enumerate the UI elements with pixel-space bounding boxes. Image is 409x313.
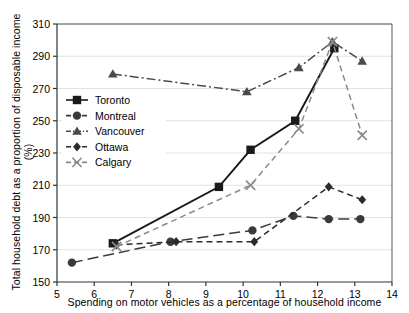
data-point-marker: [291, 117, 299, 125]
data-point-marker: [172, 237, 180, 246]
y-tick-label: 190: [32, 212, 50, 224]
line-chart-svg: 1501701902102302502702903105678910111213…: [0, 0, 409, 313]
data-point-marker: [248, 226, 256, 234]
data-point-marker: [246, 146, 254, 154]
y-axis-label: Total household debt as a proportion of …: [10, 12, 34, 292]
legend-label-ottawa: Ottawa: [95, 141, 128, 153]
data-point-marker: [294, 124, 303, 133]
series-line: [117, 187, 363, 245]
data-point-marker: [325, 215, 333, 223]
data-point-marker: [357, 56, 367, 64]
y-tick-label: 290: [32, 50, 50, 62]
data-point-marker: [68, 258, 76, 266]
y-tick-label: 250: [32, 115, 50, 127]
data-point-marker: [108, 69, 118, 77]
legend-label-montreal: Montreal: [95, 110, 136, 122]
data-point-marker: [358, 195, 366, 204]
data-point-marker: [325, 182, 333, 191]
data-point-marker: [73, 111, 81, 119]
y-tick-label: 230: [32, 147, 50, 159]
y-tick-label: 210: [32, 179, 50, 191]
legend-label-vancouver: Vancouver: [95, 125, 145, 137]
legend: TorontoMontrealVancouverOttawaCalgary: [62, 89, 166, 173]
y-tick-label: 270: [32, 83, 50, 95]
data-point-marker: [73, 96, 81, 104]
x-axis-label: Spending on motor vehicles as a percenta…: [57, 296, 392, 308]
data-point-marker: [358, 131, 367, 140]
y-tick-label: 170: [32, 244, 50, 256]
chart-container: 1501701902102302502702903105678910111213…: [0, 0, 409, 313]
legend-label-toronto: Toronto: [95, 94, 130, 106]
legend-label-calgary: Calgary: [95, 156, 132, 168]
data-point-marker: [294, 63, 304, 71]
data-point-marker: [215, 183, 223, 191]
data-point-marker: [356, 215, 364, 223]
y-tick-label: 310: [32, 18, 50, 30]
data-point-marker: [250, 237, 258, 246]
y-tick-label: 150: [32, 276, 50, 288]
